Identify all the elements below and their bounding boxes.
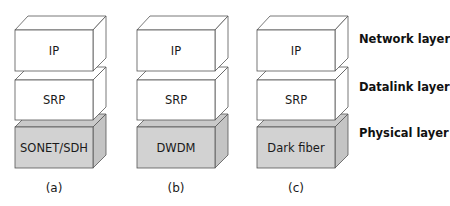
- datalink-layer-label: Datalink layer: [359, 80, 450, 94]
- box-label: SRP: [285, 93, 307, 107]
- box-network-b: IP: [137, 16, 228, 71]
- box-physical-a: SONET/SDH: [15, 114, 106, 168]
- box-label: Dark fiber: [267, 141, 325, 155]
- box-label: DWDM: [156, 141, 195, 155]
- box-label: SRP: [43, 93, 65, 107]
- box-network-c: IP: [257, 16, 348, 71]
- box-label: IP: [171, 44, 181, 58]
- caption-c: (c): [288, 181, 304, 195]
- box-datalink-a: SRP: [15, 67, 106, 120]
- box-label: SRP: [165, 93, 187, 107]
- box-physical-b: DWDM: [137, 114, 228, 168]
- network-layer-label: Network layer: [359, 32, 450, 46]
- box-label: IP: [49, 44, 59, 58]
- caption-a: (a): [46, 181, 63, 195]
- box-physical-c: Dark fiber: [257, 114, 348, 168]
- physical-layer-label: Physical layer: [359, 126, 449, 140]
- box-label: IP: [291, 44, 301, 58]
- caption-b: (b): [168, 181, 185, 195]
- stack-b: DWDM SRP IP (b): [137, 16, 228, 195]
- stack-c: Dark fiber SRP IP (c): [257, 16, 348, 195]
- box-network-a: IP: [15, 16, 106, 71]
- box-datalink-c: SRP: [257, 67, 348, 120]
- box-datalink-b: SRP: [137, 67, 228, 120]
- stack-a: SONET/SDH SRP IP (a): [15, 16, 106, 195]
- box-label: SONET/SDH: [20, 141, 88, 155]
